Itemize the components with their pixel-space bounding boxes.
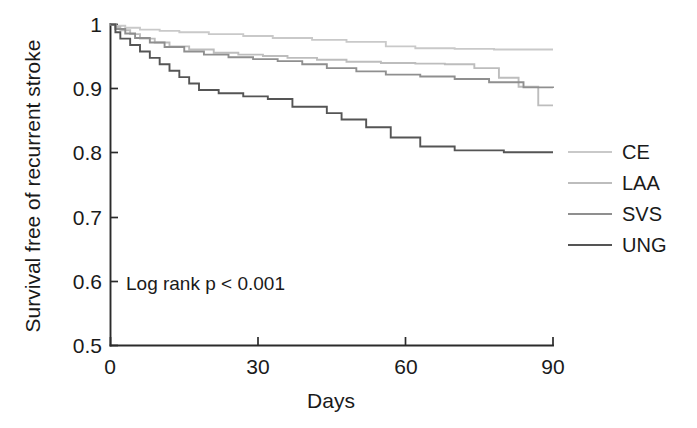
x-tick-label-90: 90	[541, 355, 564, 378]
x-tick-label-60: 60	[394, 355, 417, 378]
y-tick-label-06: 0.6	[73, 270, 102, 293]
y-tick-marks	[111, 25, 119, 346]
y-tick-label-08: 0.8	[73, 141, 102, 164]
y-tick-label-05: 0.5	[73, 334, 102, 357]
x-tick-labels: 0 30 60 90	[104, 355, 565, 378]
y-axis-title-text: Survival free of recurrent stroke	[21, 40, 44, 333]
log-rank-annotation: Log rank p < 0.001	[126, 273, 285, 294]
survival-curves-group	[111, 25, 554, 153]
legend: CELAASVSUNG	[568, 141, 666, 256]
x-tick-label-30: 30	[246, 355, 269, 378]
y-tick-label-1: 1	[90, 13, 102, 36]
survival-curve-svs	[111, 25, 554, 89]
kaplan-meier-survival-figure: Survival free of recurrent stroke 1 0.9 …	[0, 0, 697, 428]
legend-label-svs: SVS	[622, 203, 662, 225]
y-tick-label-07: 0.7	[73, 206, 102, 229]
x-axis-title-text: Days	[307, 389, 355, 412]
legend-label-ce: CE	[622, 141, 650, 163]
x-tick-label-0: 0	[104, 355, 116, 378]
legend-label-ung: UNG	[622, 234, 666, 256]
survival-curve-laa	[111, 25, 554, 106]
survival-curve-ung	[111, 25, 554, 153]
x-tick-marks	[111, 337, 554, 346]
y-tick-label-09: 0.9	[73, 77, 102, 100]
y-tick-labels: 1 0.9 0.8 0.7 0.6 0.5	[73, 13, 102, 357]
y-axis-title: Survival free of recurrent stroke	[21, 40, 44, 333]
legend-label-laa: LAA	[622, 172, 660, 194]
survival-curve-chart: Survival free of recurrent stroke 1 0.9 …	[0, 0, 697, 428]
